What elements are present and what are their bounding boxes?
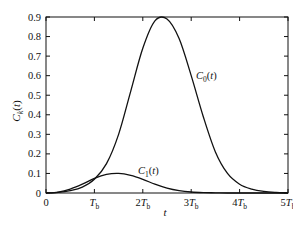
x-axis-ticks: 0Tb2Tb3Tb4Tb5Tb <box>43 17 293 211</box>
x-axis-label: t <box>163 206 167 218</box>
y-axis-title: Ck(t) <box>10 100 25 122</box>
series-line-1 <box>46 173 288 193</box>
y-tick-label: 0.6 <box>28 70 41 81</box>
y-tick-label: 0.5 <box>28 90 41 101</box>
y-tick-label: 0.4 <box>28 109 42 120</box>
x-tick-label: 3Tb <box>184 197 199 211</box>
plot-frame <box>46 17 288 193</box>
x-tick-label: 2Tb <box>135 197 150 211</box>
y-tick-label: 0.1 <box>28 168 41 179</box>
series-label-1: C1(t) <box>138 165 159 179</box>
series-label-0: C0(t) <box>196 70 217 84</box>
x-tick-label: 4Tb <box>232 197 247 211</box>
curves <box>46 17 288 193</box>
y-tick-label: 0.8 <box>28 31 41 42</box>
x-axis-title: t <box>163 206 167 218</box>
y-axis-label: Ck(t) <box>10 100 25 122</box>
y-tick-label: 0.7 <box>28 51 41 62</box>
x-tick-label: Tb <box>90 197 100 211</box>
y-tick-label: 0.2 <box>28 148 41 159</box>
y-tick-label: 0.9 <box>28 12 41 23</box>
x-tick-label: 0 <box>43 197 48 208</box>
y-tick-label: 0.3 <box>28 129 41 140</box>
series-line-0 <box>46 17 288 193</box>
x-tick-label: 5Tb <box>281 197 293 211</box>
chart: Ck(t) 00.10.20.30.40.50.60.70.80.9 0Tb2T… <box>0 0 293 225</box>
y-tick-label: 0 <box>36 188 41 199</box>
